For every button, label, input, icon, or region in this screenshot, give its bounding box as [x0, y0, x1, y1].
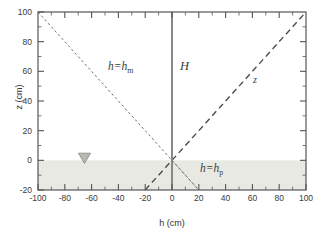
annotation-z-text: z	[253, 74, 257, 85]
annotation-hp-text: h=h	[200, 162, 219, 174]
y-tick-label-80: 80	[2, 37, 32, 47]
annotation-H: H	[180, 59, 189, 74]
annotation-h-equals-hm: h=hm	[108, 60, 133, 75]
x-major-ticks-top	[65, 12, 279, 18]
x-axis-title-wrapper: h (cm)	[132, 212, 212, 230]
annotation-H-text: H	[180, 59, 189, 73]
annotation-hm-subscript: m	[127, 66, 133, 75]
x-axis-title: h (cm)	[159, 218, 185, 228]
annotation-hp-subscript: p	[219, 168, 223, 177]
x-tick-label-100: 100	[288, 193, 322, 203]
annotation-h-equals-hp: h=hp	[200, 162, 223, 177]
y-tick-label-20: 20	[2, 126, 32, 136]
y-tick-label-0: 0	[2, 155, 32, 165]
y-major-ticks-right	[300, 42, 306, 161]
figure-container: 100 80 60 40 20 0 -20 -100 -80 -60 -40 -…	[0, 0, 322, 232]
annotation-z: z	[253, 74, 257, 85]
y-axis-title: z (cm)	[14, 85, 24, 110]
y-tick-label-100: 100	[2, 7, 32, 17]
y-axis-title-wrapper: z (cm)	[8, 67, 26, 127]
annotation-hm-text: h=h	[108, 60, 127, 72]
